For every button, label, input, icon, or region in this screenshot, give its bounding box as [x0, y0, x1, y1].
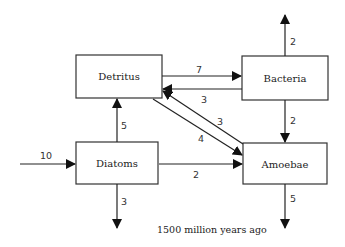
- node-detritus: Detritus: [76, 55, 162, 98]
- flow-detritus-bacteria: 7: [196, 64, 202, 75]
- node-detritus-label: Detritus: [98, 71, 140, 82]
- node-amoebae-label: Amoebae: [261, 159, 309, 170]
- flow-input-diatoms: 10: [40, 150, 52, 161]
- arrow-bacteria-detritus: 3: [163, 89, 242, 105]
- flow-diatoms-out: 3: [121, 196, 127, 207]
- arrow-diatoms-amoebae: 2: [159, 164, 242, 180]
- flow-amoebae-out: 5: [290, 193, 296, 204]
- node-diatoms: Diatoms: [76, 142, 158, 184]
- flow-diatoms-detritus: 5: [121, 120, 127, 131]
- arrow-diatoms-out: 3: [117, 184, 127, 228]
- node-bacteria-label: Bacteria: [264, 73, 307, 84]
- flow-amoebae-detritus: 3: [217, 116, 223, 127]
- flow-bacteria-out: 2: [290, 36, 296, 47]
- arrow-amoebae-out: 5: [285, 184, 296, 228]
- node-amoebae: Amoebae: [243, 143, 327, 184]
- flow-detritus-amoebae: 4: [198, 133, 204, 144]
- arrow-detritus-amoebae: 4: [153, 99, 242, 155]
- arrow-bacteria-out: 2: [285, 15, 296, 56]
- arrow-detritus-bacteria: 7: [162, 64, 241, 76]
- node-bacteria: Bacteria: [242, 56, 328, 100]
- flow-bacteria-amoebae: 2: [290, 115, 296, 126]
- node-diatoms-label: Diatoms: [96, 158, 138, 169]
- arrow-diatoms-detritus: 5: [117, 99, 127, 142]
- flow-bacteria-detritus: 3: [201, 94, 207, 105]
- diagram-caption: 1500 million years ago: [157, 224, 267, 235]
- food-web-diagram: Detritus Bacteria Diatoms Amoebae 10 5 3…: [0, 0, 345, 247]
- arrow-bacteria-amoebae: 2: [285, 100, 296, 142]
- flow-diatoms-amoebae: 2: [193, 169, 199, 180]
- arrow-input-diatoms: 10: [20, 150, 75, 164]
